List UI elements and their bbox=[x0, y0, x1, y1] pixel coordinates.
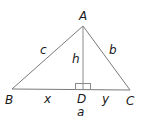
side-bc bbox=[12, 89, 130, 90]
vertex-label-a: A bbox=[78, 9, 87, 23]
vertex-label-d: D bbox=[77, 92, 86, 106]
side-label-c: c bbox=[40, 43, 47, 57]
triangle-diagram: A B C D c b h x y a bbox=[0, 0, 144, 123]
side-ac bbox=[83, 26, 130, 90]
vertex-label-c: C bbox=[126, 94, 135, 108]
altitude-label-h: h bbox=[72, 52, 80, 66]
vertex-label-b: B bbox=[5, 93, 13, 107]
base-label-a: a bbox=[77, 105, 84, 119]
segment-label-y: y bbox=[101, 92, 110, 106]
side-label-b: b bbox=[109, 43, 117, 57]
segment-label-x: x bbox=[43, 92, 52, 106]
